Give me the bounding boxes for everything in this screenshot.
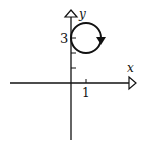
x-axis-label: x <box>127 61 134 75</box>
x-axis-arrow-icon <box>129 77 136 89</box>
y-axis-arrow-icon <box>65 10 77 17</box>
x-tick-label: 1 <box>82 86 90 100</box>
diagram-canvas: y x 1 3 <box>0 0 142 150</box>
y-axis-label: y <box>78 7 86 21</box>
axes-diagram: y x 1 3 <box>0 0 142 150</box>
direction-arrow-icon <box>96 37 106 45</box>
y-tick-label: 3 <box>60 31 68 46</box>
